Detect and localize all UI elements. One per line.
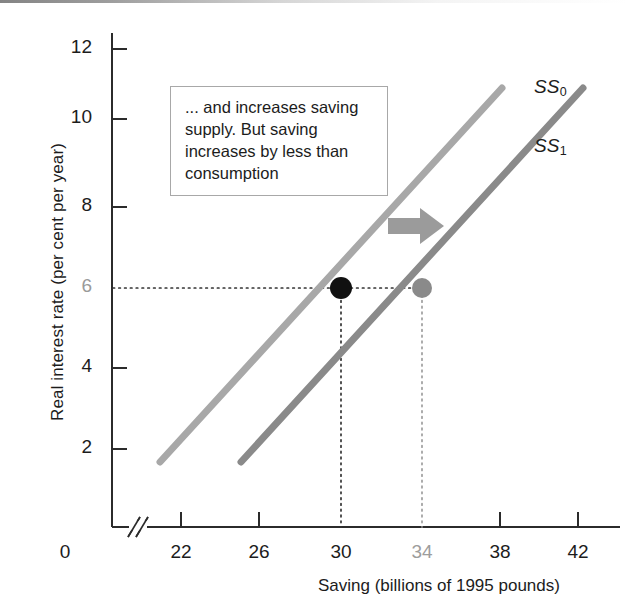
y-tick-marks: [112, 49, 127, 449]
curve-label-ss0-base: SS: [534, 76, 559, 97]
saving-supply-figure: Real interest rate (per cent per year) S…: [0, 0, 628, 611]
y-tick-label-10: 10: [52, 106, 92, 128]
x-tick-label-42: 42: [558, 541, 598, 563]
shift-arrow-icon: [388, 208, 444, 244]
x-axis-title: Saving (billions of 1995 pounds): [318, 576, 560, 596]
y-tick-label-12: 12: [52, 36, 92, 58]
x-tick-label-22: 22: [161, 541, 201, 563]
curve-label-ss0: SS0: [534, 76, 566, 98]
x-tick-marks: [181, 512, 578, 527]
equilibrium-point-new: [412, 278, 432, 298]
y-tick-label-6: 6: [52, 275, 92, 297]
equilibrium-point-original: [330, 277, 352, 299]
y-tick-label-2: 2: [52, 436, 92, 458]
x-tick-label-0: 0: [45, 541, 85, 563]
x-tick-label-34: 34: [402, 541, 442, 563]
y-tick-label-8: 8: [52, 194, 92, 216]
y-tick-label-4: 4: [52, 355, 92, 377]
x-tick-label-30: 30: [321, 541, 361, 563]
callout-box: ... and increases saving supply. But sav…: [170, 86, 388, 196]
curve-label-ss0-subscript: 0: [560, 85, 567, 99]
x-axis-break-icon: [128, 517, 148, 537]
curve-label-ss1: SS1: [534, 135, 566, 157]
callout-text: ... and increases saving supply. But sav…: [185, 98, 358, 182]
curve-label-ss1-base: SS: [534, 135, 559, 156]
x-tick-label-38: 38: [480, 541, 520, 563]
x-tick-label-26: 26: [239, 541, 279, 563]
curve-label-ss1-subscript: 1: [560, 144, 567, 158]
